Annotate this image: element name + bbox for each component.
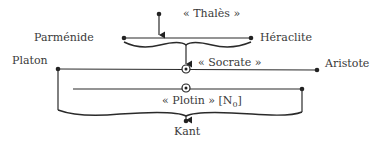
kant-dot bbox=[184, 119, 189, 124]
philosophy-lineage-diagram: « Thalès » Parménide Héraclite Platon « … bbox=[0, 0, 377, 149]
parmenide-label: Parménide bbox=[34, 31, 94, 44]
heraclite-label: Héraclite bbox=[260, 31, 312, 44]
kant-label: Kant bbox=[174, 125, 201, 138]
socrate-node-center bbox=[185, 68, 188, 71]
platon-label: Platon bbox=[12, 54, 48, 67]
aristote-label: Aristote bbox=[324, 57, 369, 70]
upper-brace bbox=[124, 42, 251, 47]
heraclite-dot bbox=[249, 36, 254, 41]
aristote-dot bbox=[315, 68, 320, 73]
socrate-label: « Socrate » bbox=[198, 56, 262, 69]
plotin-node-center bbox=[185, 87, 188, 90]
lower-brace bbox=[58, 110, 302, 116]
thales-label: « Thalès » bbox=[183, 7, 240, 20]
plotin-label: « Plotin » [N0] bbox=[162, 94, 242, 109]
